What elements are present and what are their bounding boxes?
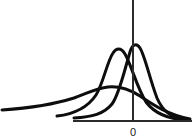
- distribution-figure: 0: [0, 0, 194, 140]
- figure-background: [0, 0, 194, 140]
- plot-canvas: 0: [0, 0, 194, 140]
- x-axis-tick-label-zero: 0: [130, 126, 136, 138]
